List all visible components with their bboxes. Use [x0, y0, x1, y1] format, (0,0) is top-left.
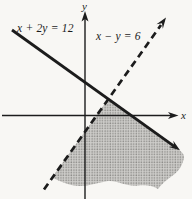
equation-label-line2: x − y = 6	[95, 30, 141, 43]
figure-svg: x + 2y = 12 x − y = 6 y x	[0, 0, 192, 199]
equation-label-line1: x + 2y = 12	[16, 22, 74, 35]
inequality-graph-figure: x + 2y = 12 x − y = 6 y x	[0, 0, 192, 199]
x-axis-label: x	[180, 109, 186, 121]
y-axis-label: y	[81, 0, 87, 12]
